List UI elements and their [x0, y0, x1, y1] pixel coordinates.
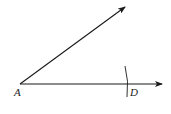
- upper-ray: [20, 7, 125, 84]
- point-label-a: A: [13, 86, 21, 98]
- construction-arc: [125, 66, 128, 97]
- point-label-d: D: [129, 86, 138, 98]
- geometry-diagram: A D: [0, 0, 171, 114]
